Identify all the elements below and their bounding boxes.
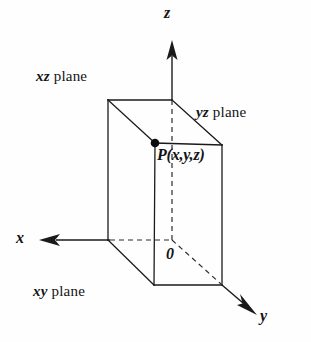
xy-plane-label: xy plane (33, 283, 85, 300)
point-p-label: P(x,y,z) (157, 146, 205, 164)
xz-plane-label-var: xz (36, 68, 50, 84)
x-axis-label: x (16, 229, 24, 247)
yz-plane-label-word: plane (213, 104, 246, 120)
y-axis-line (222, 285, 243, 303)
z-axis-label: z (164, 4, 170, 22)
xy-plane-label-word: plane (52, 283, 85, 299)
y-axis-label: y (260, 307, 267, 325)
yz-plane-label-var: yz (196, 104, 209, 120)
xy-plane-label-var: xy (33, 283, 48, 299)
edge-front-top (155, 143, 222, 145)
box-edges-group (108, 100, 222, 285)
edge-top-left-diagonal (108, 100, 155, 143)
dashed-floor-diagonal (172, 240, 221, 284)
yz-plane-label: yz plane (196, 104, 246, 121)
y-axis-arrowhead (237, 294, 257, 315)
edge-vertical-front-left (154, 143, 155, 285)
xz-plane-label-word: plane (54, 68, 87, 84)
edge-bottom-left-diagonal (108, 240, 154, 285)
xz-plane-label: xz plane (36, 68, 87, 85)
origin-label: 0 (166, 245, 174, 263)
